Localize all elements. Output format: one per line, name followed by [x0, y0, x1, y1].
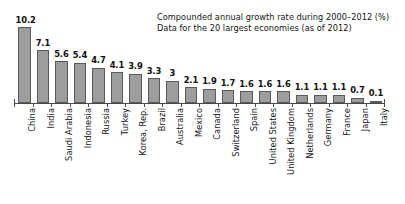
x-axis-tick: [236, 103, 237, 107]
bar-value-label: 1.6: [238, 79, 256, 89]
category-label: Saudi Arabia: [64, 108, 74, 161]
category-label: Brazil: [157, 108, 167, 131]
bar-value-label: 1.7: [219, 78, 237, 88]
bar-chart: Compounded annual growth rate during 200…: [0, 0, 405, 204]
category-label: Switzerland: [231, 108, 241, 157]
category-label: Italy: [379, 108, 389, 126]
x-axis-tick: [70, 103, 71, 107]
category-label: United States: [268, 108, 278, 164]
category-label: Turkey: [120, 108, 130, 135]
category-label: Spain: [249, 108, 259, 131]
category-label: France: [342, 108, 352, 136]
category-label: Australia: [175, 108, 185, 145]
bar-value-label: 4.1: [108, 60, 126, 70]
x-axis-tick: [218, 103, 219, 107]
bar: [203, 89, 215, 103]
x-axis-tick: [347, 103, 348, 107]
bar-value-label: 3.3: [145, 66, 163, 76]
x-axis-tick: [292, 103, 293, 107]
x-axis-tick: [88, 103, 89, 107]
bar-value-label: 1.6: [256, 79, 274, 89]
category-label: China: [27, 108, 37, 132]
bar-value-label: 5.6: [53, 49, 71, 59]
category-label: Netherlands: [305, 108, 315, 159]
bar: [111, 72, 123, 103]
x-axis-tick: [107, 103, 108, 107]
category-label: Korea, Rep.: [138, 108, 148, 155]
plot-area: 10.2China7.1India5.6Saudi Arabia5.4Indon…: [0, 0, 405, 204]
bar: [129, 74, 141, 103]
bar-value-label: 0.1: [367, 88, 385, 98]
x-axis-tick: [125, 103, 126, 107]
bar-value-label: 4.7: [90, 55, 108, 65]
x-axis-tick: [255, 103, 256, 107]
bar-value-label: 5.4: [71, 50, 89, 60]
bar-value-label: 3: [164, 68, 182, 78]
bar-value-label: 1.6: [275, 79, 293, 89]
bar: [18, 27, 30, 103]
bar: [74, 63, 86, 103]
bar-value-label: 1.1: [330, 82, 348, 92]
x-axis-tick: [366, 103, 367, 107]
x-axis-tick: [144, 103, 145, 107]
category-label: India: [46, 108, 56, 128]
bar-value-label: 3.9: [127, 61, 145, 71]
x-axis-tick: [162, 103, 163, 107]
category-label: United Kingdom: [286, 108, 296, 175]
bar-value-label: 1.1: [312, 82, 330, 92]
bar: [314, 95, 326, 103]
bar: [185, 87, 197, 103]
bar: [92, 68, 104, 103]
bar: [240, 91, 252, 103]
x-axis-tick: [14, 103, 15, 107]
x-axis-tick: [384, 103, 385, 107]
bar-value-label: 0.7: [349, 85, 367, 95]
x-axis-tick: [310, 103, 311, 107]
x-axis-tick: [329, 103, 330, 107]
bar: [55, 61, 67, 103]
bar: [37, 50, 49, 103]
x-axis-tick: [199, 103, 200, 107]
bar: [259, 91, 271, 103]
x-axis-tick: [181, 103, 182, 107]
category-label: Russia: [101, 108, 111, 135]
bar: [148, 78, 160, 103]
bar-value-label: 2.1: [182, 75, 200, 85]
category-label: Mexico: [194, 108, 204, 137]
bar: [296, 95, 308, 103]
bar: [333, 95, 345, 103]
bar: [222, 90, 234, 103]
bar-value-label: 10.2: [16, 15, 34, 25]
category-label: Indonesia: [83, 108, 93, 148]
bar-value-label: 1.1: [293, 82, 311, 92]
category-label: Canada: [212, 108, 222, 140]
category-label: Germany: [323, 108, 333, 146]
x-axis-tick: [273, 103, 274, 107]
bar: [166, 81, 178, 103]
category-label: Japan: [360, 108, 370, 131]
bar: [277, 91, 289, 103]
x-axis-tick: [51, 103, 52, 107]
bar-value-label: 1.9: [201, 76, 219, 86]
x-axis-tick: [33, 103, 34, 107]
bar-value-label: 7.1: [34, 38, 52, 48]
